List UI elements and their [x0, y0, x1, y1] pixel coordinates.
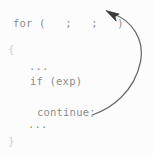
code-line-ellipsis-top: ... [29, 60, 49, 72]
code-line-ellipsis-bottom: ... [28, 118, 48, 130]
code-line-close-brace: } [8, 135, 15, 148]
code-line-open-brace: { [8, 43, 15, 56]
code-control-flow-figure: for ( ; ; ) { ... if (exp) continue; ...… [0, 0, 153, 156]
code-line-for-statement: for ( ; ; ) [13, 17, 124, 29]
code-line-if-statement: if (exp) [30, 75, 82, 87]
code-line-continue-statement: continue; [37, 106, 96, 118]
